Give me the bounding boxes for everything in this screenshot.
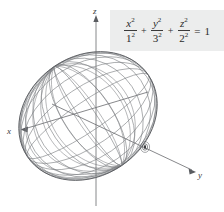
term-y-denominator-exponent: 2 <box>158 31 162 39</box>
x-axis-label: x <box>7 126 11 136</box>
y-axis-arrowhead <box>189 169 196 175</box>
term-z-denominator: 22 <box>177 31 190 44</box>
y-axis-line <box>52 104 192 170</box>
plus-operator-1: + <box>140 25 148 36</box>
equation-term-x: x2 12 <box>124 17 137 43</box>
ellipsoid-mesh <box>0 25 182 206</box>
z-axis-arrowhead <box>93 15 98 22</box>
z-axis-label: z <box>93 6 97 16</box>
ellipsoid-equation: x2 12 + y2 32 + z2 22 = 1 <box>110 10 224 51</box>
equation-term-z: z2 22 <box>177 17 190 43</box>
equation-box: x2 12 + y2 32 + z2 22 = 1 <box>110 10 224 51</box>
term-z-denominator-exponent: 2 <box>185 31 189 39</box>
term-x-numerator: x2 <box>124 17 136 31</box>
ellipsoid-grid-lines <box>0 42 158 206</box>
term-x-denominator: 12 <box>124 31 137 44</box>
term-y-denominator: 32 <box>151 31 164 44</box>
term-x-denominator-exponent: 2 <box>132 31 136 39</box>
term-z-numerator: z2 <box>178 17 190 31</box>
term-y-numerator: y2 <box>151 17 163 31</box>
term-y-numerator-exponent: 2 <box>158 16 162 24</box>
term-z-numerator-exponent: 2 <box>184 16 188 24</box>
y-axis-label: y <box>198 170 202 180</box>
plus-operator-2: + <box>167 25 175 36</box>
equation-right-hand-side: 1 <box>204 25 211 37</box>
equals-sign: = <box>193 25 200 37</box>
term-x-numerator-exponent: 2 <box>131 16 135 24</box>
equation-term-y: y2 32 <box>151 17 164 43</box>
